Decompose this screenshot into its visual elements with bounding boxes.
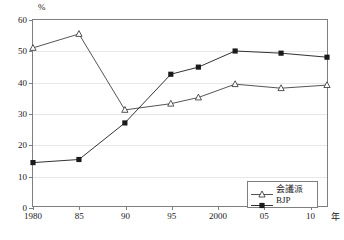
y-axis-tick-label: 10	[18, 172, 27, 181]
x-axis-tick-label: 85	[75, 212, 84, 221]
data-point-square	[168, 72, 173, 77]
legend-open-triangle-icon	[251, 185, 273, 194]
x-axis-unit-label: 年	[331, 213, 340, 222]
data-point-triangle	[232, 81, 238, 87]
y-axis-tick-label: 60	[18, 16, 27, 25]
x-axis-tick-label: 10	[306, 212, 315, 221]
x-axis-tick-label: 2000	[209, 212, 227, 221]
series-line	[33, 51, 327, 163]
data-point-square	[76, 157, 81, 162]
x-axis-tick	[218, 206, 219, 210]
chart-figure: % 年 0102030405060 198085909520000510 会議派	[0, 0, 344, 240]
x-axis-tick	[126, 206, 127, 210]
y-axis-tick-label: 20	[18, 141, 27, 150]
x-axis-tick-label: 90	[121, 212, 130, 221]
x-axis-tick	[79, 206, 80, 210]
data-point-square	[324, 55, 329, 60]
y-axis-unit-label: %	[38, 3, 46, 12]
x-axis-tick	[33, 206, 34, 210]
data-point-square	[196, 65, 201, 70]
legend-label-bjp: BJP	[276, 196, 291, 205]
legend-item-congress: 会議派	[251, 184, 314, 195]
y-axis-tick-label: 50	[18, 47, 27, 56]
legend-filled-square-icon	[251, 196, 273, 205]
data-point-triangle	[324, 82, 330, 88]
series-layer	[33, 20, 327, 206]
x-axis-tick-label: 95	[167, 212, 176, 221]
x-axis-tick-label: 1980	[24, 212, 42, 221]
data-point-square	[278, 51, 283, 56]
data-point-square	[233, 48, 238, 53]
y-axis-tick-label: 30	[18, 110, 27, 119]
data-point-triangle	[76, 31, 82, 37]
data-point-square	[30, 160, 35, 165]
chart-legend: 会議派 BJP	[247, 181, 318, 208]
legend-item-bjp: BJP	[251, 195, 314, 206]
plot-area: 0102030405060 198085909520000510	[32, 19, 328, 207]
x-axis-tick	[172, 206, 173, 210]
legend-label-congress: 会議派	[276, 185, 303, 194]
x-axis-tick-label: 05	[260, 212, 269, 221]
y-axis-tick-label: 40	[18, 78, 27, 87]
data-point-square	[122, 120, 127, 125]
